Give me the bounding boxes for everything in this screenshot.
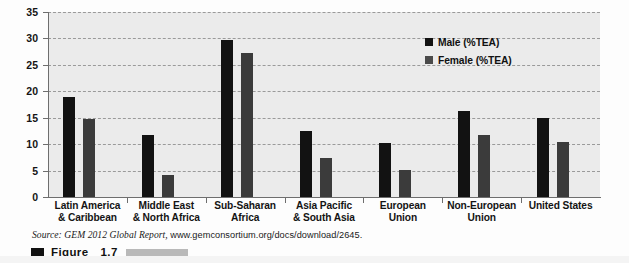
bar-male	[537, 118, 549, 197]
bar-male	[300, 131, 312, 197]
y-tick-mark	[43, 38, 48, 39]
legend-item-female: Female (%TEA)	[425, 54, 512, 66]
y-tick-label: 25	[8, 59, 38, 71]
bar-male	[458, 111, 470, 197]
y-tick-label: 15	[8, 112, 38, 124]
x-category-label: Non-EuropeanUnion	[442, 200, 521, 223]
legend-label-female: Female (%TEA)	[438, 55, 512, 66]
x-category-label-line: & North Africa	[127, 212, 206, 224]
x-axis-line	[48, 197, 601, 198]
x-category-label: Latin America& Caribbean	[48, 200, 127, 223]
y-tick-mark	[43, 197, 48, 198]
bar-female	[162, 175, 174, 197]
y-axis-line	[48, 12, 49, 198]
x-category-label-line: United States	[521, 200, 600, 212]
y-tick-label: 0	[8, 191, 38, 203]
legend-swatch-male-icon	[425, 38, 433, 46]
x-category-label-line: European	[363, 200, 442, 212]
bar-female	[320, 158, 332, 197]
bottom-strip	[0, 256, 629, 263]
gridline	[48, 144, 600, 145]
x-category-label-line: & South Asia	[285, 212, 364, 224]
y-tick-mark	[43, 144, 48, 145]
x-category-label-line: Asia Pacific	[285, 200, 364, 212]
gridline	[48, 118, 600, 119]
y-tick-label: 35	[8, 6, 38, 18]
y-tick-mark	[43, 118, 48, 119]
gridline	[48, 65, 600, 66]
bar-female	[557, 142, 569, 198]
y-tick-mark	[43, 171, 48, 172]
y-tick-mark	[43, 65, 48, 66]
x-category-label: Middle East& North Africa	[127, 200, 206, 223]
y-tick-label: 20	[8, 85, 38, 97]
bar-female	[83, 119, 95, 197]
source-prefix: Source: GEM 2012 Global Report,	[32, 229, 168, 240]
source-url: www.gemconsortium.org/docs/download/2645…	[170, 230, 362, 240]
y-tick-label: 10	[8, 138, 38, 150]
x-category-label: United States	[521, 200, 600, 212]
bar-male	[142, 135, 154, 197]
bar-female	[478, 135, 490, 197]
x-category-label-line: Union	[363, 212, 442, 224]
caption-rule	[126, 249, 188, 256]
x-category-label: EuropeanUnion	[363, 200, 442, 223]
gridline	[48, 38, 600, 39]
bar-male	[379, 143, 391, 197]
bar-male	[221, 40, 233, 198]
x-category-label-line: Sub-Saharan	[206, 200, 285, 212]
y-tick-label: 5	[8, 165, 38, 177]
bar-female	[399, 170, 411, 197]
x-category-label-line: Non-European	[442, 200, 521, 212]
figure-container: 05101520253035 Male (%TEA) Female (%TEA)…	[0, 0, 629, 263]
source-note: Source: GEM 2012 Global Report, www.gemc…	[32, 229, 362, 240]
x-category-label-line: Union	[442, 212, 521, 224]
legend-swatch-female-icon	[425, 56, 433, 64]
legend-label-male: Male (%TEA)	[438, 37, 499, 48]
x-category-label: Asia Pacific& South Asia	[285, 200, 364, 223]
chart-inner	[48, 12, 600, 197]
chart-plot-area	[48, 12, 600, 197]
y-tick-mark	[43, 12, 48, 13]
gridline	[48, 12, 600, 13]
x-category-label-line: Latin America	[48, 200, 127, 212]
bar-male	[63, 97, 75, 197]
bar-female	[241, 53, 253, 197]
chart-legend: Male (%TEA) Female (%TEA)	[425, 36, 512, 72]
gridline	[48, 91, 600, 92]
x-category-label-line: & Caribbean	[48, 212, 127, 224]
y-tick-label: 30	[8, 32, 38, 44]
y-tick-mark	[43, 91, 48, 92]
x-category-label-line: Africa	[206, 212, 285, 224]
x-category-label-line: Middle East	[127, 200, 206, 212]
x-category-label: Sub-SaharanAfrica	[206, 200, 285, 223]
legend-item-male: Male (%TEA)	[425, 36, 512, 48]
